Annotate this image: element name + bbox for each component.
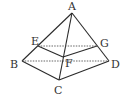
- label-B: B: [10, 58, 18, 71]
- label-A: A: [67, 0, 77, 13]
- edge-BC: [22, 61, 59, 80]
- pyramid-diagram: A B C D E F G: [0, 0, 126, 97]
- label-C: C: [54, 84, 62, 97]
- edge-FG: [63, 46, 97, 57]
- label-E: E: [31, 35, 39, 48]
- label-D: D: [111, 58, 120, 71]
- label-F: F: [65, 57, 73, 70]
- label-G: G: [100, 37, 109, 50]
- edge-EF: [38, 46, 63, 57]
